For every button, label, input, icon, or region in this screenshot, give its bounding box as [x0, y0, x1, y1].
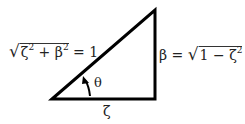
vertical-label: β = √1 − ζ2: [159, 46, 242, 63]
sqrt-sign: √: [188, 44, 199, 64]
hypotenuse-label: √ζ2 + β2 = 1: [9, 43, 98, 60]
base-label: ζ: [103, 104, 111, 118]
equals-one: = 1: [69, 44, 99, 60]
arrow-head-icon: [82, 76, 89, 84]
one-minus: 1 −: [200, 47, 230, 63]
beta-symbol: β: [55, 44, 63, 60]
sqrt-sign: √: [9, 41, 20, 61]
zeta-symbol: ζ: [229, 47, 237, 63]
exponent: 2: [237, 45, 243, 55]
beta-symbol: β: [159, 47, 167, 63]
plus: +: [34, 44, 55, 60]
equals: =: [167, 47, 188, 63]
angle-label: θ: [94, 76, 102, 89]
